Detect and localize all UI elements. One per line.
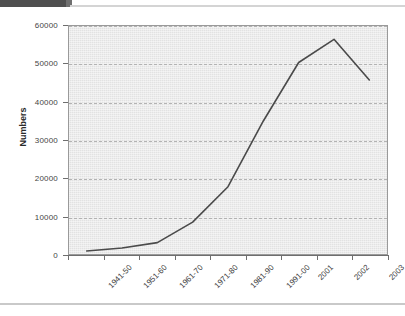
y-axis-tick-label: 0 — [53, 251, 58, 260]
x-axis-tick-label: 2003 — [387, 263, 405, 282]
x-axis-tick — [246, 255, 247, 260]
x-axis-tick — [139, 255, 140, 260]
x-axis-tick — [281, 255, 282, 260]
x-axis-tick-label: 1991-00 — [284, 263, 311, 290]
x-axis-tick-label: 2001 — [316, 263, 335, 282]
x-axis-tick — [68, 255, 69, 260]
series-polyline — [87, 39, 370, 251]
y-axis-tick-label: 50000 — [35, 59, 58, 68]
x-axis-tick — [388, 255, 389, 260]
y-axis-tick-label: 40000 — [35, 97, 58, 106]
x-axis-tick-label: 1961-70 — [177, 263, 204, 290]
line-chart: Numbers 0100002000030000400005000060000 … — [0, 10, 405, 302]
plot-area — [68, 25, 388, 255]
y-axis-tick-label: 10000 — [35, 212, 58, 221]
x-axis-tick-label: 1981-90 — [249, 263, 276, 290]
x-axis-tick — [352, 255, 353, 260]
bottom-divider-rule — [0, 303, 405, 305]
x-axis-tick — [104, 255, 105, 260]
x-axis-line — [68, 255, 388, 256]
x-axis-tick-label: 1951-60 — [142, 263, 169, 290]
x-axis-tick-label: 1971-80 — [213, 263, 240, 290]
series-line-numbers — [69, 26, 387, 254]
y-axis-title: Numbers — [18, 92, 28, 162]
x-axis-tick — [175, 255, 176, 260]
y-axis-tick-label: 20000 — [35, 174, 58, 183]
x-axis-tick — [210, 255, 211, 260]
chart-page: Numbers 0100002000030000400005000060000 … — [0, 0, 405, 316]
x-axis-tick-label: 2002 — [352, 263, 371, 282]
top-header-bar — [0, 0, 70, 7]
x-axis-tick — [317, 255, 318, 260]
x-axis-tick-label: 1941-50 — [106, 263, 133, 290]
top-divider-rule — [70, 5, 405, 7]
y-axis-tick-label: 30000 — [35, 136, 58, 145]
y-axis-tick-label: 60000 — [35, 21, 58, 30]
